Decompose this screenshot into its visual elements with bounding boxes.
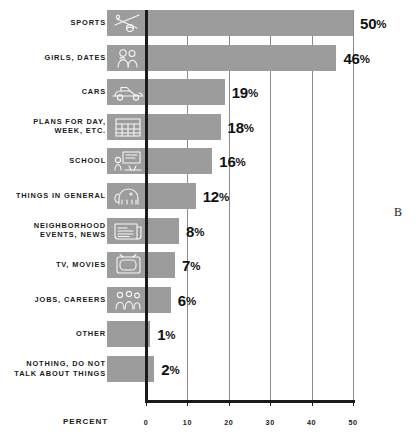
calendar-icon [109,115,147,139]
plot-area: SPORTS50%GIRLS, DATES46%CARS19%PLANS FOR… [0,0,416,437]
newspaper-icon [109,219,147,243]
bar-value-label: 19% [232,84,258,101]
category-label: PLANS FOR DAY, WEEK, ETC. [0,117,106,136]
bar-value-label: 50% [360,15,386,32]
x-tick-10 [187,400,188,406]
x-tick-label: 40 [307,418,316,427]
bar-value-label: 46% [343,49,369,66]
category-label: THINGS IN GENERAL [0,191,106,201]
bar [107,218,179,244]
television-icon [109,253,147,277]
x-tick-40 [312,400,313,406]
x-tick-label: 10 [183,418,192,427]
category-label: SCHOOL [0,157,106,167]
bar-chart: SPORTS50%GIRLS, DATES46%CARS19%PLANS FOR… [0,0,416,437]
category-label: NOTHING, DO NOT TALK ABOUT THINGS [0,359,106,378]
category-label: OTHER [0,330,106,340]
elephant-icon [109,184,147,208]
x-tick-20 [229,400,230,406]
x-tick-label: 30 [266,418,275,427]
bar-rows: SPORTS50%GIRLS, DATES46%CARS19%PLANS FOR… [0,0,416,400]
couple-dating-icon [109,46,147,70]
bar-row: PLANS FOR DAY, WEEK, ETC.18% [0,114,416,140]
x-tick-label: 50 [348,418,357,427]
bar-row: OTHER1% [0,321,416,347]
bar [107,79,225,105]
sports-icon [109,11,147,35]
category-label: NEIGHBORHOOD EVENTS, NEWS [0,221,106,240]
bar [107,114,221,140]
bar-row: JOBS, CAREERS6% [0,287,416,313]
bar-row: THINGS IN GENERAL12% [0,183,416,209]
plate-mark: B [394,205,402,220]
x-tick-50 [353,400,354,406]
category-label: CARS [0,87,106,97]
bar-value-label: 6% [178,291,196,308]
bar-row: CARS19% [0,79,416,105]
bar-value-label: 18% [228,118,254,135]
x-tick-label: 20 [224,418,233,427]
category-label: TV, MOVIES [0,260,106,270]
car-icon [109,80,147,104]
category-label: GIRLS, DATES [0,53,106,63]
y-axis-line [145,10,148,400]
bar [107,10,353,36]
bar [107,45,336,71]
x-tick-0 [146,400,147,406]
bar [107,252,175,278]
bar-row: TV, MOVIES7% [0,252,416,278]
x-axis-line [145,400,355,403]
x-tick-30 [270,400,271,406]
bar-row: SCHOOL16% [0,148,416,174]
bar [107,321,150,347]
bar-value-label: 2% [161,361,179,378]
x-tick-label: 0 [144,418,149,427]
bar-value-label: 16% [219,153,245,170]
bar-row: NOTHING, DO NOT TALK ABOUT THINGS2% [0,356,416,382]
bar-value-label: 1% [157,326,175,343]
bar-value-label: 12% [203,188,229,205]
category-label: SPORTS [0,18,106,28]
bar [107,183,196,209]
bar-row: NEIGHBORHOOD EVENTS, NEWS8% [0,218,416,244]
workers-icon [109,288,147,312]
school-icon [109,149,147,173]
bar-row: GIRLS, DATES46% [0,45,416,71]
category-label: JOBS, CAREERS [0,295,106,305]
bar [107,287,171,313]
bar-value-label: 8% [186,222,204,239]
bar-value-label: 7% [182,257,200,274]
bar [107,148,212,174]
bar-row: SPORTS50% [0,10,416,36]
x-axis-title: PERCENT [63,417,108,426]
